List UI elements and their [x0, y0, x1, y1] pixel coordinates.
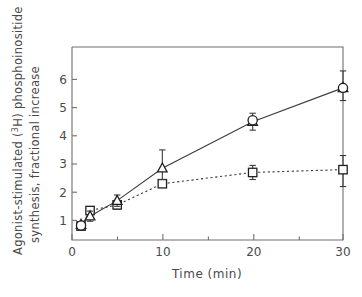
figure-container: Agonist-stimulated (3H) phosphoinositide…	[0, 0, 362, 297]
axes-box	[72, 47, 343, 240]
marker-square	[158, 180, 166, 188]
marker-circle	[338, 83, 347, 92]
x-axis-tick-labels: 0 10 20 30	[68, 245, 350, 259]
x-tick-label-20: 20	[246, 245, 261, 259]
y-tick-label-1: 1	[59, 214, 67, 228]
y-tick-label-4: 4	[59, 129, 67, 143]
marker-square	[248, 168, 256, 176]
y-tick-label-5: 5	[59, 101, 67, 115]
x-axis-ticks	[72, 234, 343, 240]
series-2-errorbars	[78, 156, 346, 229]
y-tick-label-6: 6	[59, 73, 67, 87]
plot-frame	[72, 47, 343, 240]
series-2-group	[77, 156, 347, 231]
x-axis-title: Time (min)	[171, 267, 242, 281]
y-tick-label-2: 2	[59, 186, 67, 200]
y-axis-label-line2: synthesis, fractional increase	[28, 66, 42, 243]
x-tick-label-0: 0	[68, 245, 76, 259]
line-chart: Agonist-stimulated (3H) phosphoinositide…	[0, 0, 362, 297]
marker-square	[339, 165, 347, 173]
y-axis-label-line1: Agonist-stimulated (3H) phosphoinositide	[11, 6, 25, 255]
y-tick-label-3: 3	[59, 157, 67, 171]
marker-triangle	[112, 195, 122, 204]
x-tick-label-10: 10	[155, 245, 170, 259]
y-axis-tick-labels: 6 5 4 3 2 1	[59, 73, 67, 228]
x-tick-label-30: 30	[335, 245, 350, 259]
series-1-group	[76, 71, 348, 230]
marker-circle	[76, 221, 85, 230]
y-axis-ticks	[72, 79, 77, 220]
y-axis-label: Agonist-stimulated (3H) phosphoinositide…	[11, 6, 42, 255]
marker-triangle	[158, 163, 168, 172]
marker-circle	[248, 116, 257, 125]
